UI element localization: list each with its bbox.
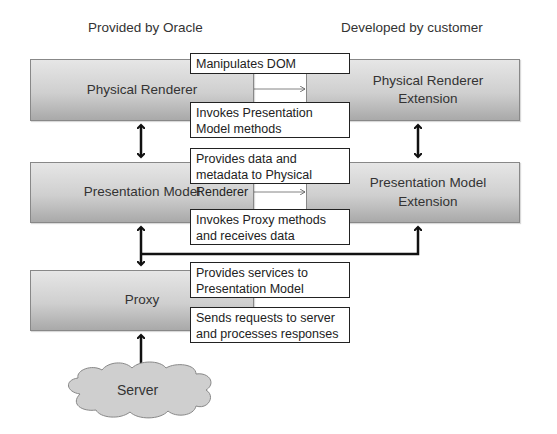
label-manipulates-dom: Manipulates DOM	[190, 53, 350, 74]
label-invokes-pm-methods: Invokes Presentation Model methods	[190, 102, 350, 138]
label-provides-services: Provides services to Presentation Model	[190, 262, 350, 298]
presentation-model-extension-label: Presentation Model Extension	[353, 174, 503, 210]
label-sends-requests: Sends requests to server and processes r…	[190, 307, 350, 343]
proxy-label: Proxy	[125, 291, 160, 309]
physical-renderer-label: Physical Renderer	[87, 81, 197, 99]
server-label: Server	[117, 382, 158, 398]
presentation-model-label: Presentation Model	[84, 183, 200, 201]
physical-renderer-extension-label: Physical Renderer Extension	[368, 72, 488, 108]
label-provides-data: Provides data and metadata to Physical R…	[190, 148, 350, 184]
label-invokes-proxy: Invokes Proxy methods and receives data	[190, 209, 350, 245]
